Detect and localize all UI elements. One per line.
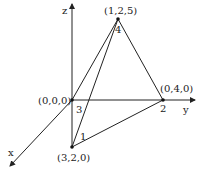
edge-p1-apex xyxy=(72,19,118,147)
edge-p2-apex xyxy=(118,19,163,100)
vertex-p1-dot xyxy=(70,145,74,149)
vertex-p1-number: 1 xyxy=(80,131,86,142)
vertex-origin-coord: (0,0,0) xyxy=(38,95,71,106)
vertex-origin-number: 3 xyxy=(76,104,82,115)
vertex-p1-coord: (3,2,0) xyxy=(57,152,90,163)
vertex-p2-coord: (0,4,0) xyxy=(160,83,193,94)
edge-origin-apex xyxy=(72,19,118,100)
tetrahedron-diagram: z y x (1,2,5) (0,0,0) (0,4,0) (3,2,0) 4 … xyxy=(0,0,202,174)
z-axis-label: z xyxy=(62,5,67,16)
vertex-apex-coord: (1,2,5) xyxy=(104,5,137,16)
vertex-p2-number: 2 xyxy=(160,103,166,114)
vertex-p2-dot xyxy=(161,98,165,102)
vertex-apex-dot xyxy=(116,17,120,21)
x-axis-label: x xyxy=(8,147,14,158)
vertex-apex-number: 4 xyxy=(115,24,121,35)
y-axis-label: y xyxy=(182,104,189,115)
